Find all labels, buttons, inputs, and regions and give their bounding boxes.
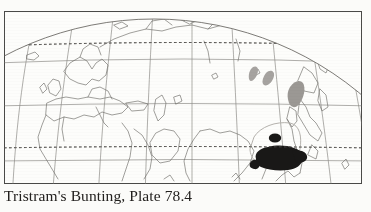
distribution-map-figure — [4, 11, 362, 184]
passage-range-japan[interactable] — [249, 66, 274, 85]
wintering-range-outlier-dot[interactable] — [269, 133, 281, 142]
parallels-solid — [4, 59, 362, 161]
figure-page: Tristram's Bunting, Plate 78.4 — [0, 0, 371, 212]
figure-caption: Tristram's Bunting, Plate 78.4 — [4, 186, 364, 207]
map-canvas — [4, 11, 362, 184]
wintering-range[interactable] — [250, 146, 307, 171]
breeding-range[interactable] — [288, 81, 305, 107]
graticule-group — [4, 11, 362, 184]
